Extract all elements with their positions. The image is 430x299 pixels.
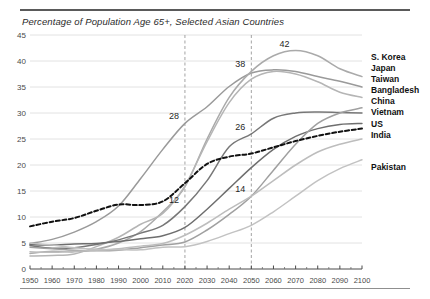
x-tick-2090: 2090 [332,276,349,285]
y-tick-25: 25 [17,135,26,144]
y-tick-40: 40 [17,57,26,66]
legend-item-s-korea: S. Korea [371,52,430,63]
legend-item-bangladesh: Bangladesh [371,85,430,96]
chart-title: Percentage of Population Age 65+, Select… [22,16,284,27]
y-tick-0: 0 [22,265,26,274]
x-tick-1970: 1970 [66,276,83,285]
legend-item-vietnam: Vietnam [371,107,430,118]
series-line-s-korea [30,51,362,254]
series-line-taiwan [30,71,362,256]
legend-item-china: China [371,96,430,107]
plot-area: 051015202530354045 195019601970198019902… [30,35,362,269]
x-tick-1960: 1960 [44,276,61,285]
legend-item-india: India [371,130,430,141]
legend-item-taiwan: Taiwan [371,74,430,85]
series-line-china [30,112,362,248]
legend-item-pakistan: Pakistan [371,162,406,173]
top-divider-rule [20,9,410,11]
x-tick-2100: 2100 [354,276,371,285]
series-line-us [30,129,362,227]
chart-figure: Percentage of Population Age 65+, Select… [0,0,430,299]
x-tick-2030: 2030 [199,276,216,285]
x-tick-2040: 2040 [221,276,238,285]
legend-item-japan: Japan [371,63,430,74]
annotation-14: 14 [235,184,245,194]
series-line-japan [30,70,362,244]
annotation-26: 26 [235,122,245,132]
y-tick-10: 10 [17,213,26,222]
y-tick-20: 20 [17,161,26,170]
x-tick-2010: 2010 [154,276,171,285]
x-tick-2070: 2070 [287,276,304,285]
annotation-42: 42 [280,39,290,49]
series-layer [30,35,362,269]
y-tick-30: 30 [17,109,26,118]
x-tick-2020: 2020 [177,276,194,285]
x-tick-2050: 2050 [243,276,260,285]
annotation-12: 12 [169,195,179,205]
x-tick-2080: 2080 [309,276,326,285]
annotation-28: 28 [169,111,179,121]
x-tick-1950: 1950 [22,276,39,285]
y-tick-15: 15 [17,187,26,196]
x-tick-1980: 1980 [88,276,105,285]
x-tick-2000: 2000 [132,276,149,285]
annotation-38: 38 [235,59,245,69]
y-tick-5: 5 [22,239,26,248]
y-tick-45: 45 [17,31,26,40]
legend-item-us: US [371,119,430,130]
x-tick-2060: 2060 [265,276,282,285]
x-tick-1990: 1990 [110,276,127,285]
y-tick-35: 35 [17,83,26,92]
legend: S. KoreaJapanTaiwanBangladeshChinaVietna… [371,52,430,141]
bottom-divider-rule [20,288,410,289]
